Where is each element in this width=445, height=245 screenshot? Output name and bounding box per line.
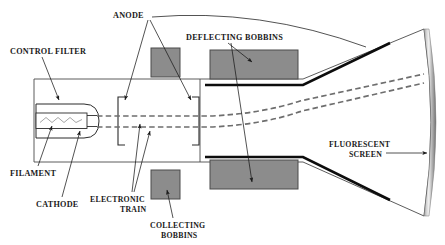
label-electronic-train-line1: ELECTRONIC <box>90 195 145 204</box>
label-deflecting-bobbins: DEFLECTING BOBBINS <box>186 33 283 42</box>
collecting-bobbin-top <box>151 48 180 77</box>
leader-anode-envelope <box>152 15 366 47</box>
deflecting-bobbin-top <box>210 50 298 79</box>
label-cathode: CATHODE <box>36 200 79 209</box>
label-fluorescent-screen-line1: FLUORESCENT <box>329 140 391 149</box>
label-fluorescent-screen-line2: SCREEN <box>349 150 382 159</box>
fluorescent-screen <box>424 29 436 216</box>
crt-diagram: CONTROL FILTER ANODE DEFLECTING BOBBINS … <box>0 0 445 245</box>
deflecting-bobbins <box>210 50 298 189</box>
electron-gun-assembly <box>36 104 99 138</box>
collecting-bobbin-bottom <box>151 170 180 199</box>
crt-diagram-canvas: CONTROL FILTER ANODE DEFLECTING BOBBINS … <box>0 0 445 245</box>
label-collecting-bobbins-line1: COLLECTING <box>150 221 205 230</box>
label-control-filter: CONTROL FILTER <box>10 47 86 56</box>
deflecting-bobbin-bottom <box>210 160 298 189</box>
label-electronic-train-line2: TRAIN <box>120 205 146 214</box>
label-anode: ANODE <box>113 11 144 20</box>
screen-phosphor-band <box>424 29 436 216</box>
label-collecting-bobbins-line2: BOBBINS <box>161 231 197 240</box>
label-filament: FILAMENT <box>10 169 56 178</box>
